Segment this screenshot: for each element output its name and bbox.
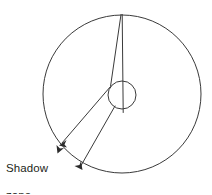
shadow-zone-figure: Shadow zone (0, 0, 212, 194)
core-outline-circle (108, 81, 136, 109)
arrow-ray-endpoint-lower-icon (75, 161, 83, 170)
shadow-zone-label: Shadow zone (6, 148, 64, 194)
shadow-zone-label-line2: zone (6, 189, 64, 195)
direct-ray-line (122, 15, 123, 113)
shadow-zone-label-line1: Shadow (6, 162, 64, 176)
